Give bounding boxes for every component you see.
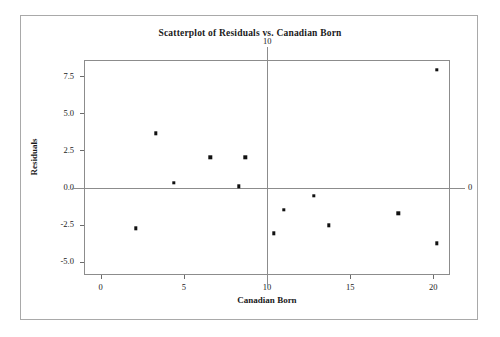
x-axis-title: Canadian Born (84, 295, 450, 305)
data-point (282, 208, 285, 211)
scatterplot-figure: Scatterplot of Residuals vs. Canadian Bo… (0, 0, 500, 337)
y-tick-label: 5.0 (34, 108, 74, 118)
data-point (172, 181, 175, 184)
x-tick-label: 0 (81, 282, 121, 292)
y-tick-label: -2.5 (34, 219, 74, 229)
data-point (435, 68, 438, 71)
vertical-reference-line-label: 10 (263, 36, 272, 46)
y-axis-title: Residuals (29, 117, 39, 197)
y-tick (80, 225, 84, 226)
y-tick (80, 76, 84, 77)
data-point (272, 232, 275, 235)
data-point (397, 212, 400, 215)
y-tick (80, 150, 84, 151)
y-tick-label: -5.0 (34, 256, 74, 266)
x-tick (350, 275, 351, 279)
horizontal-reference-line (72, 188, 465, 189)
data-point (312, 194, 315, 197)
data-point (134, 227, 137, 230)
y-tick-label: 2.5 (34, 145, 74, 155)
y-tick-label: 0.0 (34, 182, 74, 192)
data-point (237, 185, 240, 188)
x-tick (433, 275, 434, 279)
x-tick-label: 20 (413, 282, 453, 292)
x-tick-label: 5 (164, 282, 204, 292)
x-tick-label: 15 (330, 282, 370, 292)
horizontal-reference-line-label: 0 (468, 182, 472, 192)
data-point (209, 155, 212, 158)
data-point (327, 224, 330, 227)
vertical-reference-line (267, 47, 268, 288)
data-point (435, 241, 438, 244)
x-tick (101, 275, 102, 279)
chart-title: Scatterplot of Residuals vs. Canadian Bo… (0, 28, 500, 38)
y-tick (80, 262, 84, 263)
x-tick (184, 275, 185, 279)
data-point (154, 132, 157, 135)
data-point (244, 155, 247, 158)
y-tick (80, 113, 84, 114)
y-tick-label: 7.5 (34, 71, 74, 81)
